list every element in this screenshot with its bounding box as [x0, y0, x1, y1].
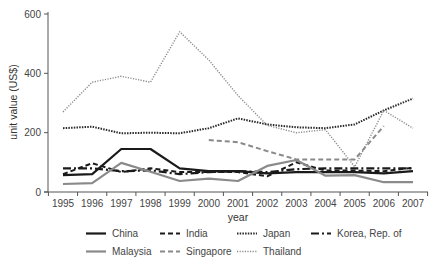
x-tick-label: 1997	[110, 198, 133, 209]
x-tick-label: 2003	[285, 198, 308, 209]
legend-label: Thailand	[263, 246, 301, 257]
x-tick-label: 1996	[81, 198, 104, 209]
series-line-india	[63, 162, 413, 176]
x-tick-label: 1999	[169, 198, 192, 209]
legend-label: Malaysia	[112, 246, 152, 257]
y-axis-title: unit value (US$)	[7, 64, 19, 139]
legend-label: Singapore	[186, 246, 232, 257]
y-tick-label: 0	[35, 187, 41, 198]
x-tick-label: 2007	[402, 198, 425, 209]
legend-label: Japan	[263, 228, 290, 239]
legend-item: Japan	[237, 228, 290, 239]
legend-item: Singapore	[160, 246, 232, 257]
legend-item: Korea, Rep. of	[311, 228, 402, 239]
x-tick-label: 2002	[256, 198, 279, 209]
y-tick-label: 400	[24, 68, 41, 79]
y-tick-label: 600	[24, 9, 41, 20]
series-line-japan	[63, 99, 413, 134]
x-tick-label: 2001	[227, 198, 250, 209]
legend-label: India	[186, 228, 208, 239]
x-tick-label: 2006	[373, 198, 396, 209]
series-lines	[63, 32, 413, 184]
legend-item: India	[160, 228, 208, 239]
legend-label: China	[112, 228, 139, 239]
series-line-singapore	[209, 126, 384, 159]
x-tick-label: 2000	[198, 198, 221, 209]
x-tick-label: 2004	[314, 198, 337, 209]
legend: ChinaIndiaJapanKorea, Rep. ofMalaysiaSin…	[86, 228, 402, 257]
series-line-thailand	[63, 32, 413, 167]
legend-item: Thailand	[237, 246, 301, 257]
legend-item: China	[86, 228, 139, 239]
x-tick-label: 1995	[52, 198, 75, 209]
x-tick-label: 1998	[139, 198, 162, 209]
line-chart: 0200400600199519961997199819992000200120…	[0, 0, 440, 266]
x-axis-title: year	[228, 211, 249, 223]
legend-label: Korea, Rep. of	[337, 228, 402, 239]
x-tick-label: 2005	[344, 198, 367, 209]
legend-item: Malaysia	[86, 246, 152, 257]
y-tick-label: 200	[24, 127, 41, 138]
